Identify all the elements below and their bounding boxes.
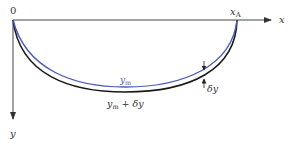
outer-curve-label: ym + δy — [106, 98, 144, 111]
x-axis-label: x — [279, 14, 285, 25]
inner-curve-label: ym — [119, 75, 131, 87]
y-axis-label: y — [9, 128, 16, 139]
deflection-diagram: 0 xA x y ym ym + δy δy — [0, 0, 288, 145]
gap-label: δy — [207, 83, 219, 94]
origin-label: 0 — [10, 5, 16, 16]
endpoint-subscript: A — [235, 11, 242, 19]
endpoint-label: xA — [230, 6, 242, 19]
